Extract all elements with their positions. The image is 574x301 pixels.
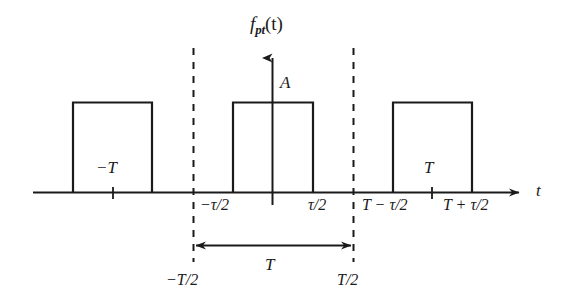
- x-tick-label-minus-tau-half: −τ/2: [200, 197, 229, 213]
- y-axis-label-argument: (t): [265, 13, 283, 34]
- figure-canvas: [0, 0, 574, 301]
- x-tick-label-T-plus-tau-half: T + τ/2: [443, 197, 489, 213]
- pulse-left: [73, 103, 152, 193]
- y-axis-label-subscript: pt: [255, 22, 265, 37]
- dashed-guide-label-minus-T-half: −T/2: [166, 272, 198, 288]
- pulse-center-label-minus-T: −T: [96, 159, 117, 176]
- pulse-center-label-plus-T: T: [424, 159, 433, 176]
- x-axis-label: t: [536, 182, 541, 199]
- x-tick-label-plus-tau-half: τ/2: [308, 197, 326, 213]
- amplitude-label: A: [280, 74, 290, 91]
- pulse-right: [393, 103, 472, 193]
- dashed-guide-label-plus-T-half: T/2: [337, 272, 358, 288]
- x-tick-label-T-minus-tau-half: T − τ/2: [362, 197, 408, 213]
- period-measure-label: T: [265, 256, 274, 273]
- pulse-train-figure: fpt(t) A −T T t −τ/2 τ/2 T − τ/2 T + τ/2…: [0, 0, 574, 301]
- y-axis-label: fpt(t): [250, 14, 283, 36]
